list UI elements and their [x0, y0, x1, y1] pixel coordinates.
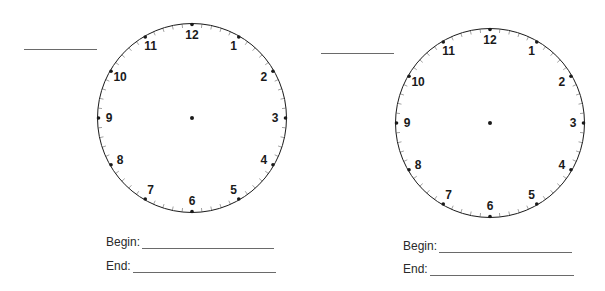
minute-tick [576, 151, 580, 152]
minute-tick [281, 98, 285, 99]
minute-tick [509, 212, 510, 216]
hour-number: 3 [570, 116, 577, 130]
hour-number: 4 [559, 158, 566, 172]
minute-tick [122, 179, 125, 182]
hour-dot [109, 163, 113, 167]
hour-number: 2 [261, 70, 268, 84]
name-blank-line-2[interactable] [321, 53, 394, 54]
minute-tick [253, 48, 256, 51]
hour-dot [535, 40, 539, 44]
hour-dot [407, 74, 411, 78]
minute-tick [518, 209, 519, 213]
minute-tick [220, 28, 221, 32]
begin-field-2[interactable]: Begin: [403, 239, 572, 253]
hour-dot [271, 163, 275, 167]
minute-tick [122, 55, 125, 58]
minute-tick [278, 89, 282, 90]
minute-tick [259, 179, 262, 182]
minute-tick [551, 190, 554, 193]
hour-number: 7 [147, 183, 154, 197]
hour-dot [582, 121, 586, 125]
end-field-2[interactable]: End: [403, 262, 574, 276]
center-dot [488, 121, 492, 125]
minute-tick [129, 48, 132, 51]
hour-dot [407, 168, 411, 172]
hour-number: 11 [442, 44, 455, 58]
minute-tick [414, 67, 417, 69]
clock-face-1: 12 1 2 3 4 5 6 7 8 9 10 11 [97, 23, 287, 213]
hour-number: 10 [411, 75, 425, 89]
begin-blank[interactable] [439, 240, 572, 253]
hour-dot [569, 168, 573, 172]
minute-tick [116, 171, 119, 173]
end-blank[interactable] [430, 263, 574, 276]
center-dot [190, 116, 194, 120]
minute-tick [543, 47, 545, 50]
minute-tick [573, 160, 577, 162]
hour-dot [441, 202, 445, 206]
minute-tick [470, 212, 471, 216]
minute-tick [102, 89, 106, 90]
minute-tick [420, 60, 423, 63]
minute-tick [278, 146, 282, 147]
minute-tick [211, 26, 212, 30]
minute-tick [509, 31, 510, 35]
minute-tick [265, 171, 268, 173]
end-label: End: [106, 259, 131, 273]
hour-number: 3 [272, 111, 279, 125]
hour-number: 6 [189, 194, 196, 208]
minute-tick [563, 67, 566, 69]
minute-tick [245, 42, 247, 45]
hour-number: 4 [261, 153, 268, 167]
begin-blank[interactable] [142, 236, 274, 249]
minute-tick [404, 85, 408, 87]
minute-tick [573, 85, 577, 87]
minute-tick [259, 55, 262, 58]
minute-tick [557, 184, 560, 187]
hour-dot [488, 28, 492, 32]
begin-label: Begin: [403, 239, 437, 253]
hour-number: 6 [487, 199, 494, 213]
minute-tick [404, 160, 408, 162]
hour-number: 12 [185, 28, 199, 42]
minute-tick [414, 176, 417, 178]
hour-number: 10 [113, 70, 127, 84]
minute-tick [527, 37, 529, 41]
minute-tick [220, 204, 221, 208]
minute-tick [100, 98, 104, 99]
minute-tick [398, 142, 402, 143]
begin-field-1[interactable]: Begin: [106, 235, 274, 249]
minute-tick [420, 184, 423, 187]
hour-number: 9 [404, 116, 411, 130]
minute-tick [102, 146, 106, 147]
minute-tick [579, 142, 583, 143]
minute-tick [434, 47, 436, 50]
hour-number: 12 [483, 33, 497, 47]
minute-tick [100, 137, 104, 138]
end-blank[interactable] [133, 260, 276, 273]
name-blank-line-1[interactable] [24, 49, 97, 50]
minute-tick [129, 185, 132, 188]
hour-number: 1 [528, 44, 535, 58]
hour-dot [190, 23, 194, 27]
hour-dot [109, 69, 113, 73]
minute-tick [461, 33, 462, 37]
hour-dot [569, 74, 573, 78]
begin-label: Begin: [106, 235, 140, 249]
hour-number: 2 [559, 75, 566, 89]
hour-number: 5 [528, 188, 535, 202]
minute-tick [427, 190, 430, 193]
minute-tick [281, 137, 285, 138]
minute-tick [106, 80, 110, 82]
minute-tick [154, 32, 156, 36]
end-label: End: [403, 262, 428, 276]
minute-tick [543, 196, 545, 199]
minute-tick [434, 196, 436, 199]
hour-dot [271, 69, 275, 73]
end-field-1[interactable]: End: [106, 259, 276, 273]
hour-dot [143, 197, 147, 201]
hour-number: 7 [445, 188, 452, 202]
minute-tick [518, 33, 519, 37]
minute-tick [461, 209, 462, 213]
hour-dot [535, 202, 539, 206]
